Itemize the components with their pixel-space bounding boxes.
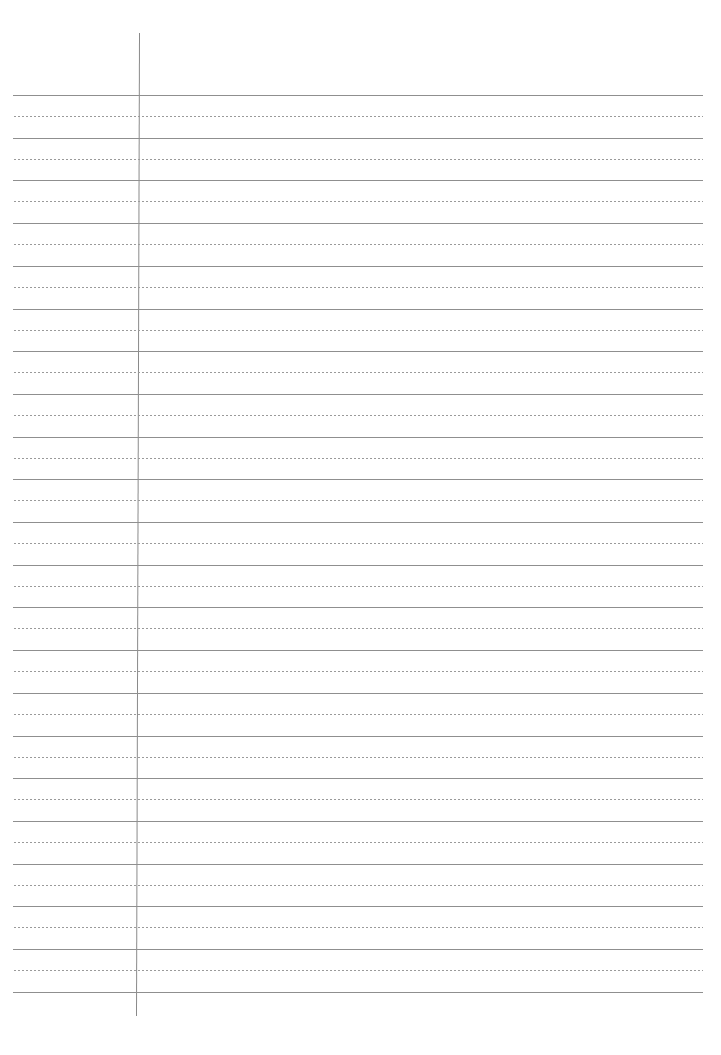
ruled-paper — [0, 0, 721, 1055]
solid-rule-line — [13, 906, 703, 907]
dotted-rule-line — [13, 714, 703, 715]
dotted-rule-line — [13, 330, 703, 331]
solid-rule-line — [13, 778, 703, 779]
solid-rule-line — [13, 479, 703, 480]
solid-rule-line — [13, 949, 703, 950]
dotted-rule-line — [13, 757, 703, 758]
solid-rule-line — [13, 437, 703, 438]
solid-rule-line — [13, 821, 703, 822]
dotted-rule-line — [13, 159, 703, 160]
dotted-rule-line — [13, 799, 703, 800]
solid-rule-line — [13, 607, 703, 608]
solid-rule-line — [13, 95, 703, 96]
solid-rule-line — [13, 138, 703, 139]
dotted-rule-line — [13, 287, 703, 288]
solid-rule-line — [13, 394, 703, 395]
dotted-rule-line — [13, 415, 703, 416]
solid-rule-line — [13, 565, 703, 566]
dotted-rule-line — [13, 500, 703, 501]
solid-rule-line — [13, 266, 703, 267]
dotted-rule-line — [13, 543, 703, 544]
solid-rule-line — [13, 522, 703, 523]
solid-rule-line — [13, 650, 703, 651]
solid-rule-line — [13, 736, 703, 737]
dotted-rule-line — [13, 586, 703, 587]
dotted-rule-line — [13, 671, 703, 672]
solid-rule-line — [13, 180, 703, 181]
dotted-rule-line — [13, 628, 703, 629]
solid-rule-line — [13, 223, 703, 224]
solid-rule-line — [13, 351, 703, 352]
dotted-rule-line — [13, 116, 703, 117]
dotted-rule-line — [13, 885, 703, 886]
solid-rule-line — [13, 864, 703, 865]
dotted-rule-line — [13, 458, 703, 459]
dotted-rule-line — [13, 244, 703, 245]
dotted-rule-line — [13, 927, 703, 928]
dotted-rule-line — [13, 201, 703, 202]
dotted-rule-line — [13, 842, 703, 843]
solid-rule-line — [13, 992, 703, 993]
solid-rule-line — [13, 693, 703, 694]
dotted-rule-line — [13, 372, 703, 373]
solid-rule-line — [13, 309, 703, 310]
dotted-rule-line — [13, 970, 703, 971]
